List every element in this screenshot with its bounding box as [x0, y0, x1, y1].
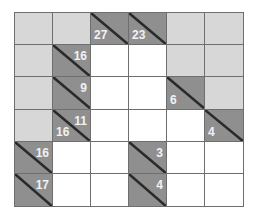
blocked-cell: [15, 77, 53, 109]
across-clue: 3: [156, 147, 163, 159]
entry-cell[interactable]: [167, 142, 205, 174]
blocked-cell: [15, 13, 53, 45]
clue-cell: 1116: [53, 110, 91, 142]
clue-cell: 16: [53, 45, 91, 77]
blocked-cell: [53, 13, 91, 45]
blocked-cell: [167, 13, 205, 45]
entry-cell[interactable]: [129, 110, 167, 142]
clue-cell: 23: [129, 13, 167, 45]
across-clue: 4: [156, 179, 163, 191]
clue-cell: 27: [91, 13, 129, 45]
entry-cell[interactable]: [91, 77, 129, 109]
entry-cell[interactable]: [205, 142, 243, 174]
clue-cell: 4: [205, 110, 243, 142]
entry-cell[interactable]: [129, 77, 167, 109]
blocked-cell: [205, 13, 243, 45]
entry-cell[interactable]: [167, 174, 205, 206]
across-clue: 17: [36, 179, 49, 191]
clue-cell: 9: [53, 77, 91, 109]
entry-cell[interactable]: [91, 142, 129, 174]
entry-cell[interactable]: [91, 110, 129, 142]
across-clue: 16: [74, 50, 87, 62]
clue-cell: 16: [15, 142, 53, 174]
entry-cell[interactable]: [167, 110, 205, 142]
entry-cell[interactable]: [205, 174, 243, 206]
blocked-cell: [205, 45, 243, 77]
clue-cell: 3: [129, 142, 167, 174]
entry-cell[interactable]: [129, 45, 167, 77]
across-clue: 16: [36, 147, 49, 159]
blocked-cell: [15, 45, 53, 77]
down-clue: 6: [170, 94, 177, 106]
entry-cell[interactable]: [91, 45, 129, 77]
across-clue: 11: [74, 115, 87, 127]
blocked-cell: [15, 110, 53, 142]
down-clue: 27: [94, 29, 107, 41]
down-clue: 4: [208, 126, 215, 138]
blocked-cell: [167, 45, 205, 77]
clue-cell: 6: [167, 77, 205, 109]
clue-cell: 17: [15, 174, 53, 206]
clue-cell: 4: [129, 174, 167, 206]
down-clue: 16: [56, 126, 69, 138]
down-clue: 23: [132, 29, 145, 41]
across-clue: 9: [80, 82, 87, 94]
entry-cell[interactable]: [53, 142, 91, 174]
blocked-cell: [205, 77, 243, 109]
kakuro-grid: 2723169611164163174: [14, 12, 244, 207]
entry-cell[interactable]: [91, 174, 129, 206]
entry-cell[interactable]: [53, 174, 91, 206]
